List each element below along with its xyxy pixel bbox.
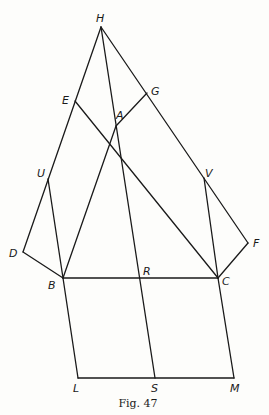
segment-CM: [218, 278, 234, 378]
point-label-D: D: [9, 247, 17, 260]
point-label-C: C: [222, 275, 230, 288]
geometry-figure: HEGAUVDFBRCLSM Fig. 47: [0, 0, 269, 415]
segment-HF: [101, 27, 248, 243]
point-label-B: B: [48, 279, 56, 292]
point-labels: HEGAUVDFBRCLSM: [9, 12, 260, 395]
segment-EC: [75, 101, 218, 278]
point-label-G: G: [151, 85, 160, 98]
point-label-L: L: [73, 382, 79, 395]
segment-DB: [23, 252, 63, 278]
point-label-R: R: [143, 265, 151, 278]
point-label-E: E: [62, 94, 69, 107]
segment-FC: [218, 243, 248, 278]
figure-caption: Fig. 47: [118, 397, 157, 410]
segment-BL: [63, 278, 78, 378]
point-label-A: A: [115, 109, 124, 122]
figure-lines: [23, 27, 248, 378]
point-label-U: U: [37, 167, 45, 180]
segment-HS: [101, 27, 155, 378]
point-label-M: M: [230, 382, 240, 395]
point-label-S: S: [151, 382, 158, 395]
point-label-H: H: [96, 12, 104, 25]
segment-HD: [23, 27, 101, 252]
segment-UB: [48, 179, 63, 278]
point-label-V: V: [205, 167, 214, 180]
point-label-F: F: [253, 237, 260, 250]
segment-AB: [63, 126, 116, 278]
